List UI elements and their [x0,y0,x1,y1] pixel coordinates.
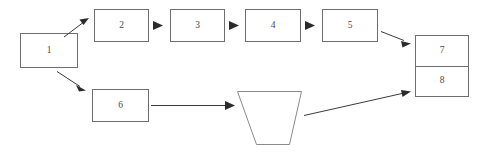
node-2-label: 2 [119,20,124,30]
node-8-label: 8 [440,75,445,85]
node-3-label: 3 [195,20,200,30]
node-5-label: 5 [348,20,353,30]
diagram-canvas: 1 2 3 4 5 6 7 8 [0,0,489,155]
node-2: 2 [95,10,149,42]
edge-9-to-8 [304,90,411,116]
node-4-label: 4 [271,20,276,30]
edge-4-to-5 [305,21,315,30]
node-7-8-stack: 7 8 [416,36,469,97]
edge-1-to-6 [57,72,86,92]
node-6-label: 6 [118,100,123,110]
edge-6-to-9 [151,101,235,110]
node-4: 4 [246,10,301,42]
edge-3-to-4 [229,21,239,30]
node-6: 6 [93,90,149,122]
edge-2-to-3 [153,21,163,30]
node-3: 3 [171,10,225,42]
node-1: 1 [21,34,78,68]
node-1-label: 1 [47,45,52,55]
node-7-label: 7 [440,45,445,55]
node-5: 5 [323,10,378,42]
node-9-trapezoid [238,92,302,145]
edge-5-to-7 [381,32,411,48]
flow-diagram: 1 2 3 4 5 6 7 8 [0,0,489,155]
